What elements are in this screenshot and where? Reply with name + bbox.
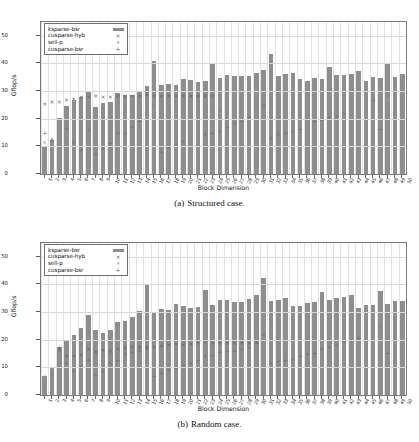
data-marker: ×	[93, 93, 98, 98]
x-axis-tick-mark	[314, 396, 315, 399]
data-marker: ×	[101, 347, 106, 352]
data-marker: ×	[79, 93, 84, 98]
x-axis-tick-mark	[358, 396, 359, 399]
bar	[269, 301, 274, 395]
bar	[291, 306, 296, 395]
y-axis-tick-mark	[36, 339, 40, 340]
gridline-vertical	[209, 22, 210, 174]
y-axis-tick-label: 10	[0, 363, 8, 369]
bar	[320, 79, 325, 174]
gridline-vertical	[260, 22, 261, 174]
x-axis-tick-mark	[219, 175, 220, 178]
gridline-vertical	[377, 243, 378, 395]
data-marker: ∗	[130, 95, 134, 100]
gridline-vertical	[238, 243, 239, 395]
bar	[312, 78, 317, 174]
legend-label-cusparse-hyb: cusparse-hyb	[48, 32, 85, 38]
gridline-vertical	[216, 243, 217, 395]
x-axis-tick-mark	[73, 396, 74, 399]
y-axis-tick-label: 50	[0, 253, 8, 259]
x-axis-tick-mark	[95, 396, 96, 399]
gridline-vertical	[406, 243, 407, 395]
x-axis-tick-mark	[153, 175, 154, 178]
data-marker: +	[174, 140, 179, 145]
gridline-vertical	[311, 243, 312, 395]
bar	[261, 278, 266, 395]
x-axis-tick-mark	[372, 175, 373, 178]
chart-panel-b: Gflop/s ××××××××××××××××××××××××××××∗∗∗∗…	[0, 221, 419, 442]
data-marker: ×	[152, 92, 157, 97]
data-marker: +	[130, 348, 135, 353]
gridline-vertical	[224, 22, 225, 174]
data-marker: +	[276, 358, 281, 363]
x-axis-tick-mark	[212, 175, 213, 178]
data-marker: ∗	[145, 333, 149, 338]
gridline-vertical	[172, 22, 173, 174]
data-marker: +	[217, 349, 222, 354]
gridline-vertical	[165, 22, 166, 174]
gridline-vertical	[340, 22, 341, 174]
data-marker: ∗	[43, 374, 47, 379]
x-axis-tick-mark	[204, 175, 205, 178]
bar	[254, 73, 259, 174]
bar	[400, 74, 405, 174]
bar	[159, 309, 164, 395]
legend-label-ksparse-bsr: ksparse-bsr	[48, 247, 80, 253]
data-marker: +	[71, 368, 76, 373]
bar	[152, 61, 157, 174]
x-axis-tick-mark	[285, 175, 286, 178]
y-axis-tick-mark	[36, 311, 40, 312]
gridline-vertical	[318, 22, 319, 174]
x-axis-tick-mark	[182, 396, 183, 399]
y-axis-tick-mark	[36, 366, 40, 367]
legend-label-cusparse-bsr: cusparse-bsr	[48, 267, 83, 273]
data-marker: ∗	[386, 97, 390, 102]
x-axis-tick-mark	[182, 175, 183, 178]
star-marker-icon: ∗	[111, 260, 125, 266]
data-marker: ×	[49, 99, 54, 104]
gridline-vertical	[399, 243, 400, 395]
gridline-vertical	[355, 22, 356, 174]
bar	[364, 305, 369, 395]
data-marker: +	[371, 97, 376, 102]
data-marker: ×	[79, 352, 84, 357]
gridline-vertical	[129, 243, 130, 395]
x-axis-tick-mark	[66, 396, 67, 399]
data-marker: +	[49, 137, 54, 142]
x-axis-tick-mark	[219, 396, 220, 399]
chart-panel-a: Gflop/s ××××××××××××××××××××××××∗∗∗∗∗∗∗∗…	[0, 0, 419, 221]
data-marker: +	[122, 351, 127, 356]
data-marker: ×	[188, 340, 193, 345]
bar	[64, 106, 69, 174]
gridline-vertical	[151, 243, 152, 395]
caption-tag-b: (b)	[178, 419, 189, 429]
x-axis-tick-mark	[80, 396, 81, 399]
gridline-vertical	[158, 22, 159, 174]
x-axis-tick-label: 50	[406, 398, 413, 406]
y-axis-label-a: Gflop/s	[10, 56, 17, 116]
x-axis-tick-mark	[292, 175, 293, 178]
bar	[291, 73, 296, 174]
data-marker: +	[181, 137, 186, 142]
data-marker: +	[152, 372, 157, 377]
x-axis-tick-mark	[336, 175, 337, 178]
data-marker: +	[86, 356, 91, 361]
legend-item-cusparse-bsr: cusparse-bsr +	[48, 45, 125, 52]
x-axis-tick-mark	[328, 175, 329, 178]
bar	[101, 103, 106, 174]
data-marker: ∗	[152, 108, 156, 113]
gridline-vertical	[231, 243, 232, 395]
gridline-vertical	[41, 243, 42, 395]
gridline-vertical	[311, 22, 312, 174]
gridline-vertical	[187, 22, 188, 174]
bar	[188, 308, 193, 395]
x-axis-tick-mark	[365, 175, 366, 178]
y-axis-tick-mark	[36, 145, 40, 146]
x-axis-tick-mark	[139, 175, 140, 178]
y-axis-tick-mark	[36, 35, 40, 36]
gridline-vertical	[275, 22, 276, 174]
x-axis-tick-mark	[175, 175, 176, 178]
bar	[166, 310, 171, 395]
data-marker: +	[268, 359, 273, 364]
data-marker: +	[247, 343, 252, 348]
